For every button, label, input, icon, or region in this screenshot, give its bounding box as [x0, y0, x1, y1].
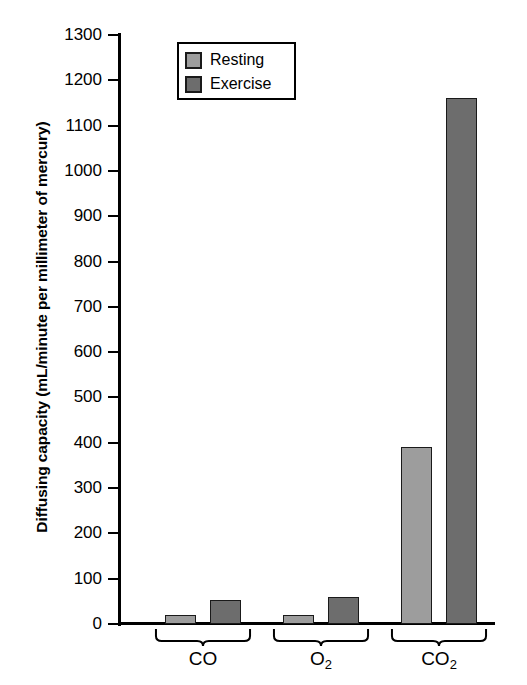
- legend: Resting Exercise: [177, 42, 296, 100]
- bar-o2-resting: [283, 615, 314, 624]
- y-tick-label: 400: [42, 433, 102, 453]
- bar-co-resting: [165, 615, 196, 624]
- exercise-swatch-icon: [185, 76, 202, 93]
- legend-row: Exercise: [185, 72, 288, 96]
- y-tick-label: 600: [42, 342, 102, 362]
- y-tick-label: 700: [42, 297, 102, 317]
- bar-co-exercise: [210, 600, 241, 624]
- y-tick-label: 100: [42, 569, 102, 589]
- bars-layer: [118, 35, 495, 624]
- legend-label-resting: Resting: [210, 51, 264, 69]
- y-tick-label: 300: [42, 478, 102, 498]
- category-group: CO: [154, 628, 252, 684]
- y-tick-label: 0: [42, 614, 102, 634]
- bar-o2-exercise: [328, 597, 359, 624]
- y-tick-label: 200: [42, 523, 102, 543]
- y-tick-label: 900: [42, 206, 102, 226]
- category-label: CO: [154, 648, 252, 670]
- category-label: O2: [272, 648, 370, 670]
- category-group: CO2: [390, 628, 488, 684]
- resting-swatch-icon: [185, 52, 202, 69]
- category-brace-icon: [272, 628, 370, 648]
- y-tick-label: 500: [42, 387, 102, 407]
- y-tick-label: 1300: [42, 25, 102, 45]
- category-brace-icon: [154, 628, 252, 648]
- bar-co2-exercise: [446, 98, 477, 624]
- y-tick-label: 1100: [42, 116, 102, 136]
- y-tick-label: 1000: [42, 161, 102, 181]
- category-brace-icon: [390, 628, 488, 648]
- legend-label-exercise: Exercise: [210, 75, 271, 93]
- category-label: CO2: [390, 648, 488, 670]
- legend-row: Resting: [185, 48, 288, 72]
- y-tick-label: 1200: [42, 70, 102, 90]
- y-tick-label: 800: [42, 252, 102, 272]
- bar-chart: Diffusing capacity (mL/minute per millim…: [0, 0, 527, 685]
- category-group: O2: [272, 628, 370, 684]
- bar-co2-resting: [401, 447, 432, 624]
